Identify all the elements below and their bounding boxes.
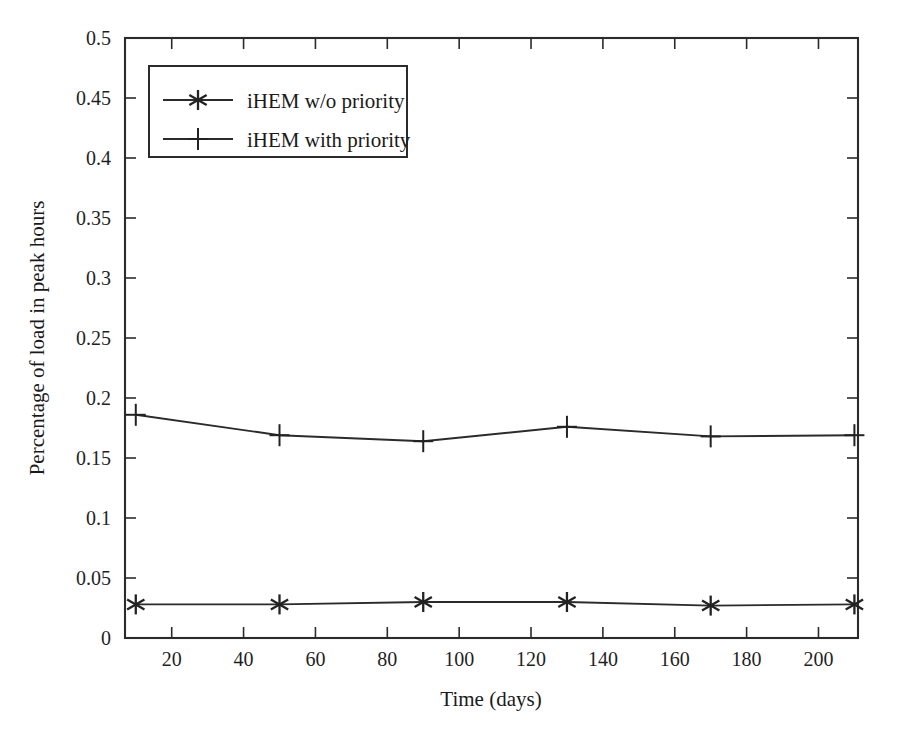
data-series-group bbox=[126, 404, 865, 616]
x-tick-label: 80 bbox=[377, 648, 397, 670]
x-tick-label: 200 bbox=[803, 648, 833, 670]
legend-label: iHEM w/o priority bbox=[247, 89, 405, 113]
x-axis-title: Time (days) bbox=[440, 687, 541, 711]
chart-legend: iHEM w/o priorityiHEM with priority bbox=[149, 66, 411, 157]
y-axis-title: Percentage of load in peak hours bbox=[25, 201, 49, 476]
y-tick-label: 0.45 bbox=[76, 87, 111, 109]
y-tick-label: 0.1 bbox=[86, 507, 111, 529]
series-line bbox=[136, 415, 855, 441]
y-axis: 00.050.10.150.20.250.30.350.40.450.5 bbox=[76, 27, 136, 649]
x-tick-label: 60 bbox=[305, 648, 325, 670]
x-tick-label: 180 bbox=[732, 648, 762, 670]
y-tick-label: 0.4 bbox=[86, 147, 111, 169]
x-tick-label: 120 bbox=[516, 648, 546, 670]
x-tick-label: 140 bbox=[588, 648, 618, 670]
y-tick-label: 0.2 bbox=[86, 387, 111, 409]
y-tick-label: 0 bbox=[101, 627, 111, 649]
y-tick-label: 0.35 bbox=[76, 207, 111, 229]
y-tick-label: 0.25 bbox=[76, 327, 111, 349]
series-1 bbox=[127, 592, 863, 616]
x-tick-label: 160 bbox=[660, 648, 690, 670]
series-line bbox=[136, 602, 855, 606]
x-tick-label: 100 bbox=[444, 648, 474, 670]
y-tick-label: 0.05 bbox=[76, 567, 111, 589]
y-tick-label: 0.5 bbox=[86, 27, 111, 49]
series-2 bbox=[126, 404, 865, 452]
x-tick-label: 20 bbox=[162, 648, 182, 670]
y-tick-label: 0.15 bbox=[76, 447, 111, 469]
chart-figure: 00.050.10.150.20.250.30.350.40.450.5 204… bbox=[0, 0, 905, 731]
legend-label: iHEM with priority bbox=[247, 128, 411, 152]
y-tick-label: 0.3 bbox=[86, 267, 111, 289]
x-tick-label: 40 bbox=[234, 648, 254, 670]
line-chart: 00.050.10.150.20.250.30.350.40.450.5 204… bbox=[0, 0, 905, 731]
